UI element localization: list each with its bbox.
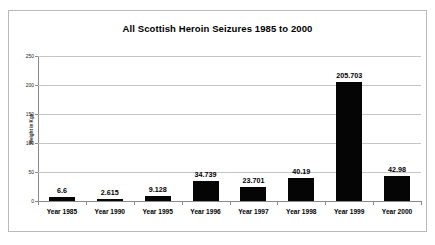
x-axis-category-label: Year 1996 — [190, 208, 220, 215]
x-tick-mark — [134, 201, 135, 205]
bar-value-label: 40.19 — [292, 167, 310, 176]
bar[interactable] — [49, 197, 75, 201]
bar[interactable] — [193, 181, 219, 201]
x-tick-mark — [325, 201, 326, 205]
bar-slot: 23.701 — [230, 56, 278, 201]
x-axis-category-label: Year 1999 — [334, 208, 364, 215]
x-axis-category-label: Year 1990 — [95, 208, 125, 215]
bar[interactable] — [288, 178, 314, 201]
x-axis-category-label: Year 1985 — [47, 208, 77, 215]
x-tick-mark — [277, 201, 278, 205]
bar[interactable] — [97, 199, 123, 201]
x-tick-mark — [421, 201, 422, 205]
x-tick-mark — [38, 201, 39, 205]
x-tick-mark — [182, 201, 183, 205]
bar-value-label: 6.6 — [57, 186, 67, 195]
x-axis-category-label: Year 1997 — [238, 208, 268, 215]
bar-slot: 2.615 — [86, 56, 134, 201]
bar-slot: 6.6 — [38, 56, 86, 201]
bar-value-label: 9.128 — [149, 185, 167, 194]
bar[interactable] — [145, 196, 171, 201]
y-tick-label: 100 — [26, 140, 34, 146]
plot-area: Weight in Kgs 050100150200250 6.62.6159.… — [38, 56, 421, 201]
bar[interactable] — [240, 187, 266, 201]
bar-value-label: 2.615 — [101, 188, 119, 197]
bar[interactable] — [336, 82, 362, 201]
chart-title: All Scottish Heroin Seizures 1985 to 200… — [9, 23, 426, 34]
bar-value-label: 205.703 — [336, 71, 362, 80]
x-tick-mark — [86, 201, 87, 205]
y-tick-label: 0 — [31, 198, 34, 204]
bar-slot: 42.98 — [373, 56, 421, 201]
x-tick-mark — [230, 201, 231, 205]
x-axis-category-label: Year 1998 — [286, 208, 316, 215]
x-tick-mark — [373, 201, 374, 205]
x-axis-category-label: Year 2000 — [382, 208, 412, 215]
bar-value-label: 34.739 — [195, 170, 217, 179]
bar-slot: 34.739 — [182, 56, 230, 201]
y-tick-label: 150 — [26, 111, 34, 117]
bar-value-label: 42.98 — [388, 165, 406, 174]
bar[interactable] — [384, 176, 410, 201]
chart-frame: All Scottish Heroin Seizures 1985 to 200… — [8, 10, 427, 232]
bar-value-label: 23.701 — [242, 176, 264, 185]
y-tick-label: 50 — [28, 169, 34, 175]
bar-slot: 9.128 — [134, 56, 182, 201]
x-axis-category-label: Year 1995 — [142, 208, 172, 215]
bar-slot: 40.19 — [277, 56, 325, 201]
bar-slot: 205.703 — [325, 56, 373, 201]
y-tick-label: 200 — [26, 82, 34, 88]
y-tick-label: 250 — [26, 53, 34, 59]
